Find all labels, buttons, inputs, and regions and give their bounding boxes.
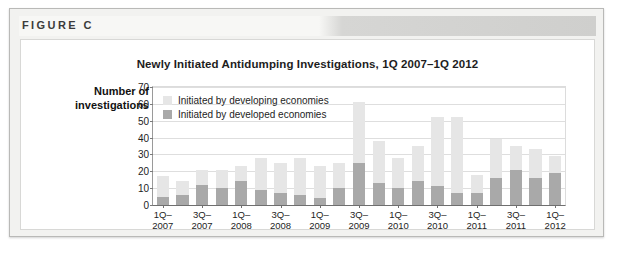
x-tick-label-year: 2010 (427, 220, 448, 231)
y-tick-mark (150, 87, 153, 88)
y-tick-label: 10 (138, 183, 149, 194)
bar-segment-developed (353, 163, 365, 205)
bar-segment-developing (157, 176, 169, 196)
x-tick-mark (241, 205, 242, 208)
bar-segment-developed (549, 173, 561, 205)
bar-segment-developed (529, 178, 541, 205)
bar-segment-developed (314, 198, 326, 205)
x-tick-mark (320, 205, 321, 208)
x-tick-mark (202, 205, 203, 208)
bar-segment-developing (196, 170, 208, 185)
legend-label-developed: Initiated by developed economies (178, 109, 326, 120)
chart-title: Newly Initiated Antidumping Investigatio… (21, 58, 594, 70)
bar-segment-developing (255, 158, 267, 190)
y-tick-label: 60 (138, 98, 149, 109)
bar-2Q-2011 (490, 87, 502, 205)
x-tick-label: 3Q–2008 (270, 209, 291, 231)
bar-segment-developing (471, 175, 483, 194)
bar-segment-developing (549, 156, 561, 173)
x-tick-label-quarter: 3Q– (427, 209, 448, 220)
x-tick-mark (163, 205, 164, 208)
bar-4Q-2010 (451, 87, 463, 205)
legend-label-developing: Initiated by developing economies (178, 95, 329, 106)
x-tick-label-year: 2007 (191, 220, 212, 231)
y-tick-mark (150, 205, 153, 206)
bar-segment-developed (490, 178, 502, 205)
y-tick-label: 70 (138, 82, 149, 93)
plot-area: 010203040506070 1Q–20073Q–20071Q–20083Q–… (152, 86, 566, 206)
x-tick-label: 3Q–2009 (348, 209, 369, 231)
legend-item-developed: Initiated by developed economies (163, 107, 329, 121)
bar-segment-developed (431, 186, 443, 205)
figure-label: FIGURE C (22, 19, 94, 31)
bar-segment-developed (510, 170, 522, 205)
bar-segment-developing (431, 117, 443, 186)
bar-segment-developing (490, 139, 502, 178)
x-tick-label: 1Q–2008 (231, 209, 252, 231)
bar-segment-developed (412, 181, 424, 205)
x-tick-label-quarter: 3Q– (270, 209, 291, 220)
x-tick-label-year: 2009 (348, 220, 369, 231)
bar-segment-developing (176, 181, 188, 194)
bar-segment-developed (157, 197, 169, 205)
x-tick-mark (398, 205, 399, 208)
y-tick-mark (150, 171, 153, 172)
x-tick-label: 1Q–2010 (388, 209, 409, 231)
x-tick-label: 1Q–2012 (545, 209, 566, 231)
y-axis-title: Number of investigations (41, 84, 149, 112)
bar-3Q-2011 (510, 87, 522, 205)
bar-segment-developed (216, 188, 228, 205)
bar-segment-developing (235, 166, 247, 181)
x-tick-label: 1Q–2007 (152, 209, 173, 231)
legend-swatch-developed-icon (163, 110, 172, 119)
y-tick-label: 20 (138, 166, 149, 177)
x-tick-label-quarter: 1Q– (466, 209, 486, 220)
bar-segment-developing (529, 149, 541, 178)
x-tick-label-quarter: 3Q– (506, 209, 526, 220)
x-tick-mark (477, 205, 478, 208)
bar-2Q-2009 (333, 87, 345, 205)
y-tick-label: 40 (138, 132, 149, 143)
bar-segment-developed (471, 193, 483, 205)
bar-segment-developing (353, 102, 365, 163)
bar-segment-developing (314, 166, 326, 198)
y-tick-label: 50 (138, 115, 149, 126)
figure-panel: Newly Initiated Antidumping Investigatio… (20, 39, 595, 230)
legend-swatch-developing-icon (163, 96, 172, 105)
y-tick-mark (150, 138, 153, 139)
bar-segment-developing (333, 163, 345, 188)
x-tick-label: 3Q–2010 (427, 209, 448, 231)
y-tick-mark (150, 188, 153, 189)
bar-segment-developing (274, 163, 286, 193)
x-tick-label-year: 2008 (270, 220, 291, 231)
bar-segment-developing (392, 158, 404, 188)
bar-segment-developing (451, 117, 463, 193)
y-tick-label: 0 (143, 200, 149, 211)
plot-wrap: 010203040506070 1Q–20073Q–20071Q–20083Q–… (152, 86, 566, 206)
x-tick-mark (437, 205, 438, 208)
x-tick-label-quarter: 1Q– (388, 209, 409, 220)
x-tick-label-year: 2010 (388, 220, 409, 231)
x-tick-label-quarter: 3Q– (348, 209, 369, 220)
bar-segment-developed (333, 188, 345, 205)
bar-1Q-2010 (392, 87, 404, 205)
bar-segment-developed (373, 183, 385, 205)
bar-segment-developed (255, 190, 267, 205)
x-tick-label-year: 2009 (309, 220, 330, 231)
x-tick-label-year: 2011 (506, 220, 526, 231)
bar-segment-developed (294, 195, 306, 205)
x-tick-label-quarter: 1Q– (545, 209, 566, 220)
bar-4Q-2011 (529, 87, 541, 205)
x-tick-label: 1Q–2009 (309, 209, 330, 231)
y-tick-mark (150, 154, 153, 155)
bar-segment-developed (235, 181, 247, 205)
y-tick-label: 30 (138, 149, 149, 160)
bar-segment-developing (294, 158, 306, 195)
bar-segment-developed (176, 195, 188, 205)
x-tick-label-quarter: 1Q– (309, 209, 330, 220)
bar-segment-developed (274, 193, 286, 205)
x-tick-mark (555, 205, 556, 208)
figure-frame: FIGURE C Newly Initiated Antidumping Inv… (9, 8, 604, 237)
x-tick-label-year: 2008 (231, 220, 252, 231)
x-tick-label: 1Q–2011 (466, 209, 486, 231)
